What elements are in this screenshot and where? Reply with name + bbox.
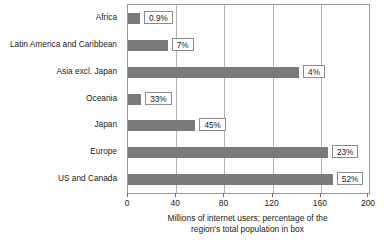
- tick-label-200: 200: [361, 198, 375, 209]
- tick-label-160: 160: [313, 198, 327, 209]
- bar-us-and-canada: [128, 174, 333, 185]
- caption-line-2: region's total population in box: [127, 224, 368, 235]
- tick-80: [223, 193, 224, 197]
- caption-line-1: Millions of internet users; percentage o…: [127, 213, 368, 224]
- gridline-80: [224, 5, 225, 193]
- bar-latin-america-and-caribbean: [128, 40, 168, 51]
- tick-0: [127, 193, 128, 197]
- bar-africa: [128, 13, 140, 24]
- tick-label-120: 120: [265, 198, 279, 209]
- percentage-box-europe: 23%: [332, 145, 358, 158]
- category-label-asia-excl-japan: Asia excl. Japan: [0, 67, 117, 76]
- category-axis-labels: Africa Latin America and Caribbean Asia …: [0, 4, 122, 192]
- bar-asia-excl-japan: [128, 67, 299, 78]
- percentage-box-latin-america-and-caribbean: 7%: [172, 38, 194, 51]
- tick-label-0: 0: [125, 198, 130, 209]
- tick-200: [367, 193, 368, 197]
- percentage-box-africa: 0.9%: [144, 11, 173, 24]
- gridline-40: [176, 5, 177, 193]
- x-axis-tick-labels: 04080120160200: [0, 198, 391, 210]
- gridline-120: [273, 5, 274, 193]
- category-label-japan: Japan: [0, 120, 117, 129]
- category-label-oceania: Oceania: [0, 94, 117, 103]
- category-label-us-and-canada: US and Canada: [0, 174, 117, 183]
- tick-40: [175, 193, 176, 197]
- percentage-box-us-and-canada: 52%: [337, 172, 363, 185]
- x-axis-caption: Millions of internet users; percentage o…: [127, 213, 368, 234]
- tick-160: [320, 193, 321, 197]
- category-label-latin-america-and-caribbean: Latin America and Caribbean: [0, 40, 117, 49]
- x-axis-ticks: [127, 193, 368, 197]
- bar-japan: [128, 120, 195, 131]
- bar-oceania: [128, 94, 141, 105]
- percentage-box-oceania: 33%: [145, 92, 171, 105]
- gridline-160: [321, 5, 322, 193]
- category-label-europe: Europe: [0, 147, 117, 156]
- tick-label-80: 80: [219, 198, 228, 209]
- bar-europe: [128, 147, 328, 158]
- bar-chart: Africa Latin America and Caribbean Asia …: [0, 0, 391, 251]
- tick-label-40: 40: [170, 198, 179, 209]
- percentage-box-japan: 45%: [199, 118, 225, 131]
- tick-120: [272, 193, 273, 197]
- category-label-africa: Africa: [0, 13, 117, 22]
- percentage-box-asia-excl-japan: 4%: [303, 65, 325, 78]
